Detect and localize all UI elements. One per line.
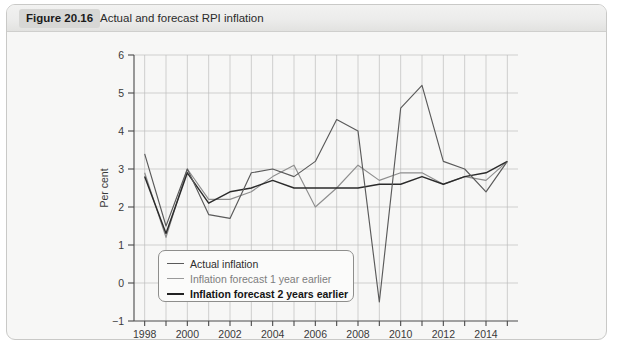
x-tick-label: 2006 — [304, 328, 328, 339]
x-tick-label: 2004 — [261, 328, 285, 339]
legend-item-actual: Actual inflation — [167, 256, 345, 271]
legend-item-forecast-2-years: Inflation forecast 2 years earlier — [167, 286, 345, 301]
figure-header: Figure 20.16 Actual and forecast RPI inf… — [7, 5, 606, 32]
y-tick-label: 4 — [118, 125, 124, 137]
x-tick-label: 2008 — [346, 328, 370, 339]
chart-legend: Actual inflation Inflation forecast 1 ye… — [158, 250, 354, 302]
y-axis-ticks: −10123456 — [112, 49, 134, 327]
legend-label-forecast-2-years: Inflation forecast 2 years earlier — [190, 288, 348, 300]
figure-title: Actual and forecast RPI inflation — [100, 9, 264, 28]
x-tick-label: 2014 — [474, 328, 498, 339]
legend-item-forecast-1-year: Inflation forecast 1 year earlier — [167, 271, 345, 286]
x-tick-label: 2010 — [389, 328, 413, 339]
y-tick-label: 5 — [118, 87, 124, 99]
y-tick-label: 0 — [118, 277, 124, 289]
legend-label-actual: Actual inflation — [190, 258, 258, 270]
x-tick-label: 2002 — [218, 328, 242, 339]
y-tick-label: −1 — [112, 315, 124, 327]
series-line-forecast-1-year — [145, 161, 508, 237]
y-tick-label: 3 — [118, 163, 124, 175]
figure-card: Figure 20.16 Actual and forecast RPI inf… — [6, 4, 607, 340]
y-tick-label: 1 — [118, 239, 124, 251]
y-tick-label: 2 — [118, 201, 124, 213]
legend-label-forecast-1-year: Inflation forecast 1 year earlier — [190, 273, 331, 285]
legend-swatch-forecast-1-year-icon — [167, 278, 184, 279]
x-tick-label: 2000 — [176, 328, 200, 339]
y-tick-label: 6 — [118, 49, 124, 61]
legend-swatch-actual-icon — [167, 263, 184, 264]
x-axis-ticks: 199820002002200420062008201020122014 — [133, 321, 507, 339]
x-tick-label: 1998 — [133, 328, 157, 339]
x-tick-label: 2012 — [432, 328, 456, 339]
y-axis-title: Per cent — [98, 168, 110, 207]
legend-swatch-forecast-2-years-icon — [167, 293, 184, 295]
chart-plot-area: −10123456 199820002002200420062008201020… — [7, 32, 606, 339]
figure-number-badge: Figure 20.16 — [19, 9, 100, 28]
